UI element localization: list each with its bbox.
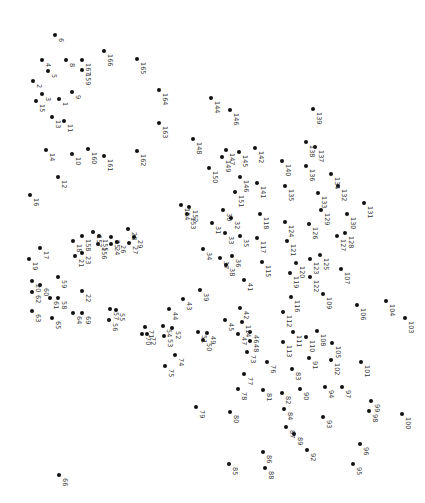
dot-number-label: 141	[260, 186, 267, 198]
dot-number-label: 44	[172, 312, 179, 320]
puzzle-dot	[280, 159, 284, 163]
dot-number-label: 10	[75, 157, 82, 165]
puzzle-dot	[304, 140, 308, 144]
dot-number-label: 1	[62, 102, 69, 106]
puzzle-dot	[321, 292, 325, 296]
dot-number-label: 115	[265, 265, 272, 277]
puzzle-dot	[46, 69, 50, 73]
puzzle-dot	[28, 193, 32, 197]
puzzle-dot	[242, 278, 246, 282]
puzzle-dot	[307, 356, 311, 360]
dot-number-label: 72	[150, 337, 157, 345]
puzzle-dot	[135, 57, 139, 61]
dot-number-label: 131	[367, 206, 374, 218]
puzzle-dot	[218, 256, 222, 260]
puzzle-dot	[359, 360, 363, 364]
dot-number-label: 58	[61, 301, 68, 309]
puzzle-dot	[209, 96, 213, 100]
puzzle-dot	[258, 212, 262, 216]
dot-number-label: 125	[323, 258, 330, 270]
dot-number-label: 165	[140, 62, 147, 74]
dot-number-label: 38	[229, 268, 236, 276]
puzzle-dot	[319, 208, 323, 212]
puzzle-dot	[335, 234, 339, 238]
puzzle-dot	[238, 306, 242, 310]
dot-number-label: 77	[247, 377, 254, 385]
dot-number-label: 56	[112, 323, 119, 331]
dot-number-label: 14	[49, 153, 56, 161]
dot-number-label: 4	[45, 63, 52, 67]
puzzle-dot	[362, 201, 366, 205]
puzzle-dot	[223, 318, 227, 322]
puzzle-dot	[288, 271, 292, 275]
puzzle-dot	[157, 88, 161, 92]
puzzle-dot	[384, 299, 388, 303]
puzzle-dot	[91, 230, 95, 234]
dot-number-label: 17	[43, 251, 50, 259]
puzzle-dot	[285, 239, 289, 243]
puzzle-dot	[255, 236, 259, 240]
dot-number-label: 92	[310, 453, 317, 461]
puzzle-dot	[80, 234, 84, 238]
dot-number-label: 96	[363, 447, 370, 455]
puzzle-dot	[260, 260, 264, 264]
puzzle-dot	[38, 283, 42, 287]
dot-number-label: 5	[51, 74, 58, 78]
dot-number-label: 74	[178, 358, 185, 366]
dot-number-label: 166	[107, 54, 114, 66]
puzzle-dot	[308, 257, 312, 261]
puzzle-dot	[44, 148, 48, 152]
dot-number-label: 156	[101, 247, 108, 259]
puzzle-dot	[248, 339, 252, 343]
dot-number-label: 8	[69, 63, 76, 67]
puzzle-dot	[281, 310, 285, 314]
dot-number-label: 82	[285, 396, 292, 404]
puzzle-dot	[253, 146, 257, 150]
dot-number-label: 80	[233, 415, 240, 423]
dot-number-label: 99	[374, 404, 381, 412]
dot-number-label: 157	[96, 235, 103, 247]
puzzle-dot	[318, 253, 322, 257]
puzzle-dot	[291, 330, 295, 334]
puzzle-dot	[102, 49, 106, 53]
dot-number-label: 130	[350, 217, 357, 229]
dot-number-label: 145	[242, 155, 249, 167]
dot-number-label: 101	[364, 365, 371, 377]
dot-number-label: 41	[247, 283, 254, 291]
dot-number-label: 100	[405, 417, 412, 429]
puzzle-dot	[343, 231, 347, 235]
dot-number-label: 35	[243, 239, 250, 247]
dot-number-label: 123	[313, 262, 320, 274]
dot-number-label: 15	[39, 104, 46, 112]
dot-number-label: 120	[299, 266, 306, 278]
puzzle-dot	[73, 254, 77, 258]
puzzle-dot	[351, 462, 355, 466]
puzzle-dot	[237, 150, 241, 154]
dot-number-label: 63	[35, 314, 42, 322]
dot-number-label: 121	[290, 244, 297, 256]
dot-number-label: 42	[243, 311, 250, 319]
dot-number-label: 113	[286, 345, 293, 357]
puzzle-dot	[179, 203, 183, 207]
dot-number-label: 160	[91, 152, 98, 164]
dot-number-label: 122	[313, 280, 320, 292]
dot-number-label: 54	[166, 329, 173, 337]
dot-number-label: 16	[33, 198, 40, 206]
puzzle-dot	[56, 296, 60, 300]
dot-number-label: 114	[245, 325, 252, 337]
dot-number-label: 81	[266, 393, 273, 401]
puzzle-dot	[255, 181, 259, 185]
puzzle-dot	[143, 325, 147, 329]
dot-number-label: 116	[294, 300, 301, 312]
dot-number-label: 69	[85, 316, 92, 324]
puzzle-dot	[323, 385, 327, 389]
dot-number-label: 102	[334, 363, 341, 375]
dot-number-label: 75	[168, 369, 175, 377]
dot-number-label: 150	[212, 171, 219, 183]
puzzle-dot	[223, 231, 227, 235]
dot-number-label: 76	[270, 365, 277, 373]
puzzle-dot	[321, 415, 325, 419]
puzzle-dot	[290, 367, 294, 371]
puzzle-dot	[30, 290, 34, 294]
puzzle-dot	[261, 450, 265, 454]
